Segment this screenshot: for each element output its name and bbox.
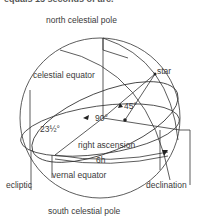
- angle-45-label: 45°: [124, 101, 137, 111]
- star-label: star: [157, 66, 171, 76]
- celestial-equator-label: celestial equator: [33, 70, 95, 80]
- angle-23-label: 23½°: [40, 124, 60, 134]
- angle-90-label: 90°: [95, 113, 108, 123]
- star-line: [103, 74, 155, 118]
- north-pole-label: north celestial pole: [46, 15, 117, 25]
- hours-label: 6h: [96, 155, 105, 165]
- ecliptic-label: ecliptic: [6, 180, 32, 190]
- vernal-equator-label: vernal equator: [52, 170, 106, 180]
- right-ascension-label: right ascension: [78, 140, 135, 150]
- south-pole-label: south celestial pole: [48, 206, 120, 216]
- declination-label: declination: [146, 180, 187, 190]
